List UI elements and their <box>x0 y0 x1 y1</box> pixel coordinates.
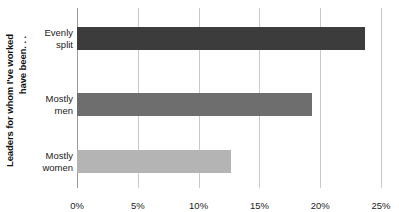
bar-mostly-women <box>77 150 231 173</box>
category-label-line: men <box>17 105 73 117</box>
gridline-25% <box>381 8 382 188</box>
category-label-mostly-men: Mostly men <box>17 93 77 116</box>
category-label-mostly-women: Mostly women <box>17 150 77 173</box>
x-tick-label: 0% <box>70 200 84 211</box>
category-label-line: Mostly <box>17 150 73 162</box>
category-label-line: Evenly <box>17 27 73 39</box>
y-axis-title-line-1: Leaders for whom I've worked <box>5 33 18 166</box>
bar-mostly-men <box>77 93 312 116</box>
x-tick-label: 25% <box>371 200 390 211</box>
x-tick-label: 5% <box>131 200 145 211</box>
x-tick-label: 20% <box>311 200 330 211</box>
plot-area: 0%5%10%15%20%25% <box>77 8 381 188</box>
x-tick-label: 10% <box>189 200 208 211</box>
bar-evenly-split <box>77 27 365 50</box>
category-label-evenly-split: Evenly split <box>17 27 77 50</box>
x-tick-label: 15% <box>250 200 269 211</box>
category-label-line: Mostly <box>17 93 73 105</box>
bar-chart: Leaders for whom I've worked have been. … <box>0 0 399 212</box>
category-label-line: women <box>17 162 73 174</box>
category-label-line: split <box>17 39 73 51</box>
